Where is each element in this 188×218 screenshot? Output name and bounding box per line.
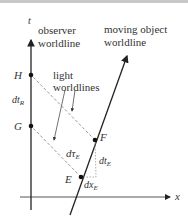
light-pointer-2 [72, 90, 75, 111]
moving-object-worldline [70, 56, 127, 215]
spacetime-diagram: x t observer worldline moving object wor… [0, 0, 188, 218]
moving-object-label: moving object [104, 23, 167, 35]
moving-object-label-2: worldline [104, 36, 146, 48]
dtau-e-label: dτE [66, 147, 80, 161]
x-axis-label: x [174, 190, 180, 202]
event-h [29, 73, 34, 78]
light-pointer-1 [54, 90, 65, 140]
event-f-label: F [99, 131, 107, 143]
dt-r-label: dtR [12, 94, 25, 107]
light-label: light [53, 69, 73, 81]
event-e [79, 175, 84, 180]
dt-e-label: dtE [99, 155, 112, 168]
observer-label-2: worldline [38, 37, 80, 49]
t-axis-label: t [28, 15, 31, 26]
dx-e-label: dxE [84, 179, 98, 192]
dt-dx-triangle [81, 140, 96, 177]
event-g [29, 124, 34, 129]
event-g-label: G [14, 120, 22, 132]
event-h-label: H [13, 69, 23, 81]
event-f [93, 138, 98, 143]
observer-label: observer [38, 24, 76, 36]
light-label-2: worldlines [53, 81, 99, 93]
event-e-label: E [64, 173, 72, 185]
